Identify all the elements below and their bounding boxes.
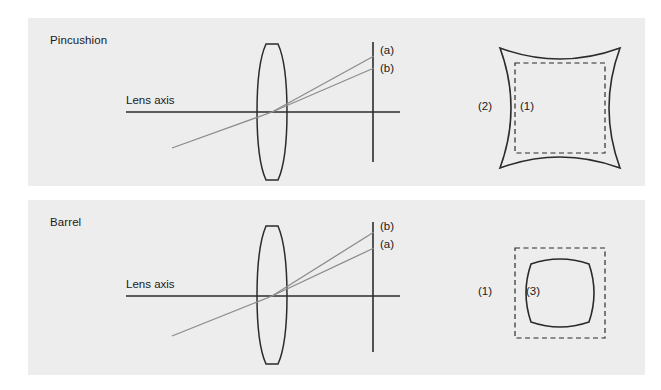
shape-label-outer: (2) (478, 100, 492, 112)
lens-distortion-figure: Pincushion Lens axis (a) (b) (2) (0, 0, 661, 390)
pincushion-shape-diagram (28, 18, 645, 186)
shape-label-outer: (1) (478, 285, 492, 297)
barrel-shape-diagram (28, 200, 645, 375)
pincushion-outline (500, 48, 620, 168)
panel-barrel: Barrel Lens axis (b) (a) (1) ( (28, 200, 645, 375)
shape-label-inner: (3) (526, 285, 540, 297)
shape-label-inner: (1) (520, 100, 534, 112)
panel-pincushion: Pincushion Lens axis (a) (b) (2) (28, 18, 645, 186)
